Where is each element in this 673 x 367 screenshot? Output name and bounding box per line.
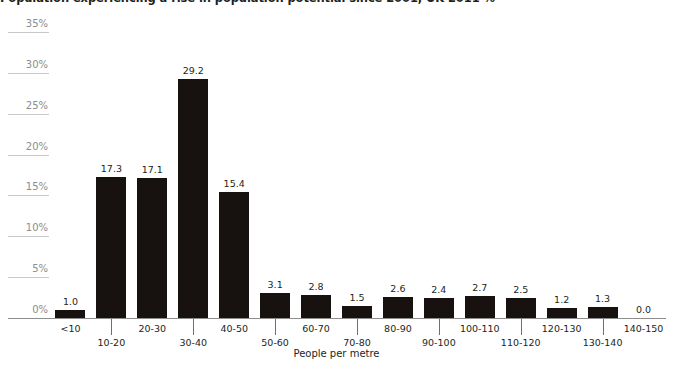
- y-gridline: [8, 155, 49, 156]
- y-gridline: [8, 73, 49, 74]
- y-gridline: [8, 195, 49, 196]
- y-gridline: [8, 236, 49, 237]
- bar[interactable]: [260, 293, 290, 318]
- bar-chart: Population experiencing a rise in popula…: [0, 0, 673, 367]
- bar[interactable]: [55, 310, 85, 318]
- bar[interactable]: [96, 177, 126, 318]
- bar-value-label: 17.1: [132, 165, 172, 175]
- x-axis-category-label: 130-140: [573, 337, 633, 348]
- x-axis-category-label: 100-110: [450, 323, 510, 334]
- bar-value-label: 2.7: [460, 283, 500, 293]
- bar-value-label: 1.5: [337, 293, 377, 303]
- bar-value-label: 1.3: [583, 294, 623, 304]
- bar[interactable]: [219, 192, 249, 318]
- bar-value-label: 1.0: [50, 297, 90, 307]
- bar[interactable]: [588, 307, 618, 318]
- bar-value-label: 17.3: [91, 164, 131, 174]
- x-axis-title: People per metre: [0, 348, 673, 359]
- x-axis-line: [8, 318, 666, 319]
- bar[interactable]: [547, 308, 577, 318]
- y-axis-tick-label: 35%: [4, 19, 48, 29]
- bar[interactable]: [465, 296, 495, 318]
- bar-value-label: 15.4: [214, 179, 254, 189]
- x-axis-tick-mark: [193, 319, 194, 335]
- y-gridline: [8, 277, 49, 278]
- y-gridline: [8, 32, 49, 33]
- bar[interactable]: [137, 178, 167, 318]
- y-axis-tick-label: 30%: [4, 60, 48, 70]
- bar[interactable]: [424, 298, 454, 318]
- x-axis-category-label: 60-70: [286, 323, 346, 334]
- x-axis-category-label: 40-50: [204, 323, 264, 334]
- x-axis-category-label: 140-150: [614, 323, 673, 334]
- x-axis-tick-mark: [275, 319, 276, 335]
- bar-value-label: 3.1: [255, 280, 295, 290]
- y-axis-tick-label: 10%: [4, 223, 48, 233]
- bar-value-label: 0.0: [624, 305, 664, 315]
- y-gridline: [8, 114, 49, 115]
- x-axis-category-label: 80-90: [368, 323, 428, 334]
- x-axis-category-label: 70-80: [327, 337, 387, 348]
- x-axis-category-label: 30-40: [163, 337, 223, 348]
- y-axis-tick-label: 5%: [4, 264, 48, 274]
- x-axis-tick-mark: [357, 319, 358, 335]
- x-axis-category-label: 90-100: [409, 337, 469, 348]
- x-axis-tick-mark: [521, 319, 522, 335]
- x-axis-tick-mark: [111, 319, 112, 335]
- x-axis-tick-mark: [603, 319, 604, 335]
- bar[interactable]: [383, 297, 413, 318]
- bar-value-label: 2.8: [296, 282, 336, 292]
- bar-value-label: 1.2: [542, 295, 582, 305]
- x-axis-category-label: 10-20: [81, 337, 141, 348]
- y-axis-tick-label: 0%: [4, 305, 48, 315]
- x-axis-tick-mark: [439, 319, 440, 335]
- bar-value-label: 2.4: [419, 285, 459, 295]
- x-axis-category-label: 50-60: [245, 337, 305, 348]
- y-axis-tick-label: 25%: [4, 101, 48, 111]
- x-axis-category-label: 120-130: [532, 323, 592, 334]
- bar[interactable]: [301, 295, 331, 318]
- bar-value-label: 2.5: [501, 285, 541, 295]
- y-axis-tick-label: 20%: [4, 142, 48, 152]
- y-axis-tick-label: 15%: [4, 182, 48, 192]
- bar[interactable]: [506, 298, 536, 318]
- bar[interactable]: [342, 306, 372, 318]
- x-axis-category-label: <10: [40, 323, 100, 334]
- x-axis-category-label: 110-120: [491, 337, 551, 348]
- bar-value-label: 29.2: [173, 66, 213, 76]
- bar-value-label: 2.6: [378, 284, 418, 294]
- x-axis-category-label: 20-30: [122, 323, 182, 334]
- plot-area: 0%5%10%15%20%25%30%35% 1.017.317.129.215…: [0, 0, 673, 367]
- bar[interactable]: [178, 79, 208, 318]
